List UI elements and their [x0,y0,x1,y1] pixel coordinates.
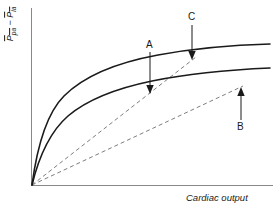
y-axis-label-term1: Ppa [5,28,15,41]
annotation-arrow-b [237,87,244,120]
y-axis-label-term2: Pla [5,7,15,18]
y-axis-label-p2: P [5,12,15,18]
plot-area [0,0,280,209]
upper-curve [32,44,270,185]
resistance-line-1 [32,57,196,185]
y-axis-label: Ppa − Pla [5,0,17,59]
y-axis-label-sub1: pa [10,28,17,35]
y-axis-label-operator: − [5,18,15,28]
resistance-line-2 [32,86,243,185]
annotation-label-c: C [188,12,195,22]
annotation-label-a: A [146,40,153,50]
annotation-arrow-c [188,25,195,60]
y-axis-label-sub2: la [10,7,17,12]
annotation-label-b: B [237,122,244,132]
annotation-arrow-a [146,52,153,94]
x-axis-label: Cardiac output [186,192,248,203]
figure-container: A B C Ppa − Pla Cardiac output [0,0,280,209]
y-axis-label-p1: P [5,35,15,41]
